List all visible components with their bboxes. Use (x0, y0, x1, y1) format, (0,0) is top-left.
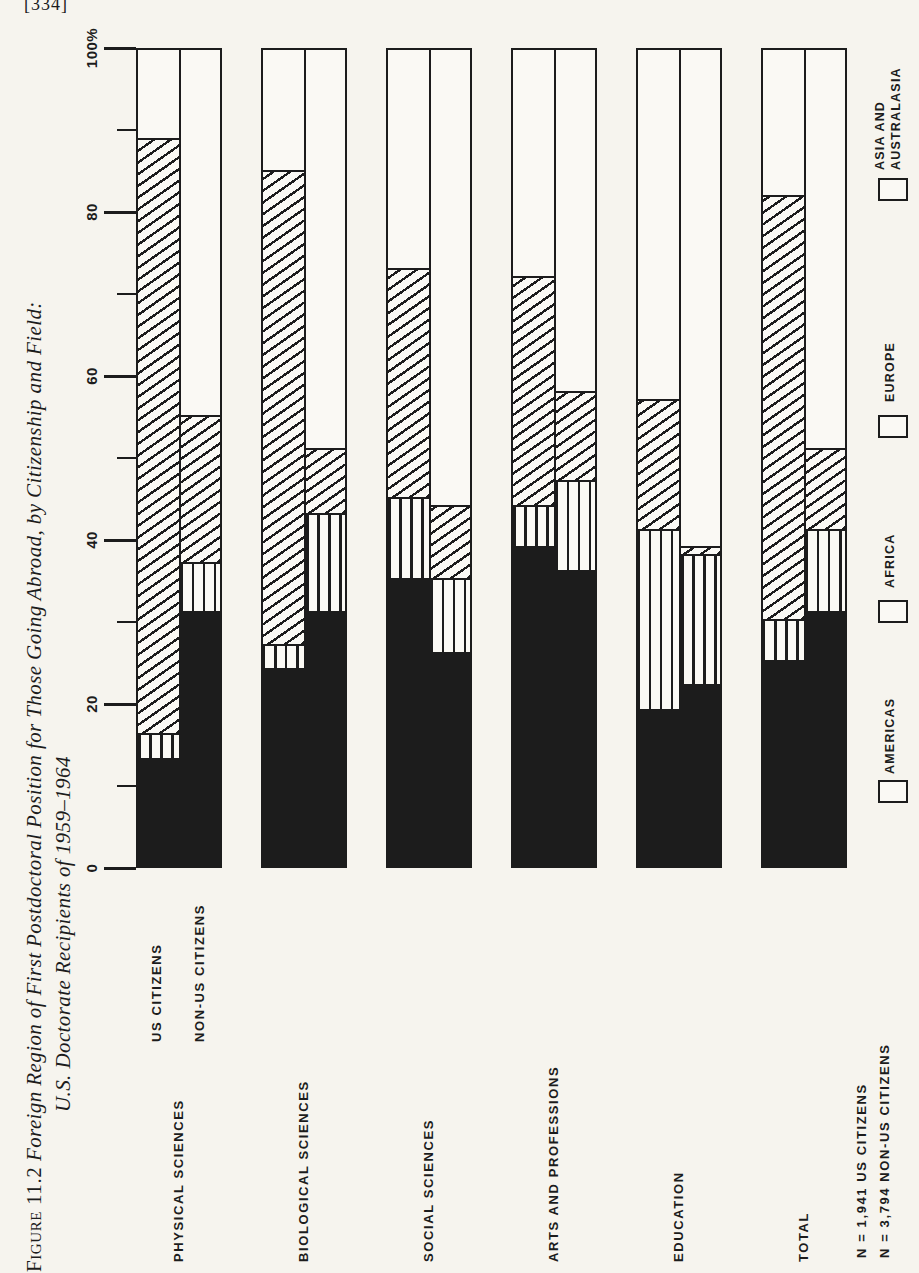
bar-pair-total (761, 48, 847, 868)
sample-size-note: N = 3,794 NON-US CITIZENS (878, 1044, 891, 1258)
legend-swatch-europe (878, 415, 908, 438)
segment-europe (138, 140, 179, 736)
segment-asia-australasia (638, 50, 679, 401)
sample-size-note: N = 1,941 US CITIZENS (855, 1083, 868, 1258)
segment-europe (638, 401, 679, 532)
axis-minor-tick (117, 457, 136, 460)
segment-europe (556, 393, 595, 483)
legend-swatch-americas (878, 780, 908, 803)
segment-africa (556, 482, 595, 572)
segment-europe (513, 278, 554, 506)
segment-africa (431, 580, 470, 653)
segment-americas (138, 760, 179, 866)
segment-europe (763, 197, 804, 621)
segment-asia-australasia (388, 50, 429, 270)
figure-caption-line1: Figure 11.2 Foreign Region of First Post… (24, 301, 45, 1272)
segment-africa (638, 531, 679, 711)
segment-americas (638, 711, 679, 866)
legend-label-asia-and-australasia: AUSTRALASIA (890, 67, 903, 170)
axis-major-tick (104, 211, 136, 214)
segment-asia-australasia (681, 50, 720, 548)
segment-americas (181, 613, 220, 866)
segment-europe (181, 417, 220, 564)
segment-americas (763, 662, 804, 866)
bar-pair-social-sciences (386, 48, 472, 868)
axis-tick-label: 20 (84, 695, 99, 713)
segment-asia-australasia (763, 50, 804, 197)
category-label: PHYSICAL SCIENCES (172, 1099, 185, 1262)
bar-non-us-citizens (804, 50, 845, 866)
axis-major-tick (104, 867, 136, 870)
segment-africa (806, 531, 845, 613)
bar-pair-physical-sciences (136, 48, 222, 868)
segment-americas (263, 670, 304, 866)
axis-minor-tick (117, 129, 136, 132)
axis-major-tick (104, 375, 136, 378)
axis-tick-label: 60 (84, 367, 99, 385)
category-label: TOTAL (797, 1212, 810, 1262)
bar-pair-education (636, 48, 722, 868)
category-label: ARTS AND PROFESSIONS (547, 1066, 560, 1262)
legend-swatch-asia-and-australasia (878, 178, 908, 201)
figure-caption-line1-text: Foreign Region of First Postdoctoral Pos… (22, 301, 46, 1166)
series-label-us-citizens: US CITIZENS (150, 944, 163, 1043)
segment-americas (306, 613, 345, 866)
segment-asia-australasia (431, 50, 470, 507)
figure-number: Figure 11.2 (22, 1167, 46, 1272)
segment-africa (181, 564, 220, 613)
segment-europe (431, 507, 470, 580)
legend-label-africa: AFRICA (884, 534, 897, 588)
bar-pair-arts-and-professions (511, 48, 597, 868)
segment-asia-australasia (138, 50, 179, 140)
axis-minor-tick (117, 621, 136, 624)
category-label: BIOLOGICAL SCIENCES (297, 1080, 310, 1262)
segment-americas (431, 654, 470, 866)
axis-tick-label: 100% (84, 28, 99, 68)
segment-europe (681, 548, 720, 556)
scanned-book-page: [334] Figure 11.2 Foreign Region of Firs… (0, 0, 919, 1273)
bar-us-citizens (763, 50, 804, 866)
category-label: SOCIAL SCIENCES (422, 1119, 435, 1262)
segment-europe (388, 270, 429, 498)
bar-us-citizens (263, 50, 304, 866)
segment-africa (306, 515, 345, 613)
bar-non-us-citizens (679, 50, 720, 866)
bar-pair-biological-sciences (261, 48, 347, 868)
segment-asia-australasia (263, 50, 304, 172)
segment-americas (388, 580, 429, 866)
segment-africa (138, 735, 179, 759)
axis-tick-label: 0 (84, 864, 99, 873)
segment-europe (263, 172, 304, 645)
bar-us-citizens (513, 50, 554, 866)
series-label-non-us-citizens: NON-US CITIZENS (193, 904, 206, 1042)
axis-major-tick (104, 47, 136, 50)
legend-label-americas: AMERICAS (884, 698, 897, 774)
segment-americas (556, 572, 595, 866)
segment-africa (513, 507, 554, 548)
segment-americas (513, 548, 554, 866)
bar-non-us-citizens (429, 50, 470, 866)
bar-us-citizens (138, 50, 179, 866)
segment-europe (306, 450, 345, 515)
bar-non-us-citizens (179, 50, 220, 866)
axis-minor-tick (117, 293, 136, 296)
bar-non-us-citizens (304, 50, 345, 866)
axis-tick-label: 80 (84, 203, 99, 221)
axis-major-tick (104, 539, 136, 542)
segment-africa (681, 556, 720, 687)
segment-africa (763, 621, 804, 662)
category-label: EDUCATION (672, 1171, 685, 1262)
page-number: [334] (24, 0, 68, 15)
legend-label-europe: EUROPE (884, 342, 897, 402)
bar-us-citizens (638, 50, 679, 866)
segment-africa (388, 499, 429, 581)
axis-minor-tick (117, 785, 136, 788)
segment-americas (806, 613, 845, 866)
axis-major-tick (104, 703, 136, 706)
segment-asia-australasia (181, 50, 220, 417)
legend-swatch-africa (878, 600, 908, 623)
segment-asia-australasia (806, 50, 845, 450)
legend-label-asia-and-australasia: ASIA AND (874, 101, 887, 170)
segment-europe (806, 450, 845, 532)
segment-asia-australasia (556, 50, 595, 393)
